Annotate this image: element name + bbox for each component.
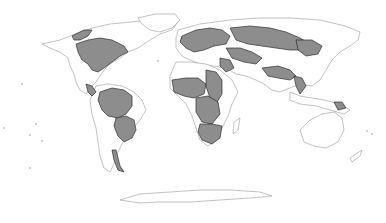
pacific-dot <box>35 123 37 125</box>
pacific-dot <box>371 133 373 135</box>
pacific-dot <box>29 134 31 136</box>
atlantic-dot <box>157 60 159 62</box>
pacific-dot <box>29 167 31 169</box>
world-map <box>0 0 386 223</box>
pacific-dot <box>21 83 23 85</box>
australia <box>300 112 344 148</box>
pacific-dot <box>41 140 43 142</box>
pacific-dot <box>3 127 5 129</box>
new-zealand <box>350 150 362 162</box>
pacific-dot <box>366 130 368 132</box>
antarctica <box>120 190 272 203</box>
madagascar <box>233 118 240 134</box>
